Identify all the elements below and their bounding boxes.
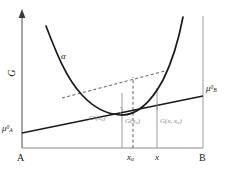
x-alpha-tick-label: xα xyxy=(127,153,134,163)
annotation-g-x-alpha: G(xα) xyxy=(125,118,140,125)
g-prime-main: G'(x xyxy=(89,114,101,122)
mu-b-standard-label: μ0B xyxy=(206,84,217,94)
g-x-alpha-tail: ) xyxy=(138,117,140,125)
alpha-curve-label: α xyxy=(61,52,66,61)
mu-b-subscript: B xyxy=(213,87,216,93)
x-axis-endpoint-a-label: A xyxy=(17,153,24,163)
x-axis-endpoint-b-label: B xyxy=(199,153,206,163)
y-axis-arrowhead xyxy=(19,9,26,18)
alpha-free-energy-curve xyxy=(46,17,183,115)
x-tick-label: x xyxy=(155,153,159,162)
g-prime-tail: ) xyxy=(103,114,105,122)
annotation-g-x-x-alpha: G(x, xα) xyxy=(160,118,182,125)
annotation-g-prime-x-alpha: G'(xα) xyxy=(89,115,106,122)
diagram-canvas xyxy=(0,0,226,174)
x-alpha-subscript: α xyxy=(131,156,134,162)
g-x-x-alpha-tail: ) xyxy=(179,117,181,125)
mu-a-standard-label: μ0A xyxy=(2,124,13,134)
y-axis-label: G xyxy=(7,65,17,81)
tangent-dashed-line xyxy=(62,71,165,98)
free-energy-diagram: G α μ0A μ0B A B xα x G'(xα) G(xα) G(x, x… xyxy=(0,0,226,174)
g-x-alpha-main: G(x xyxy=(125,117,136,125)
mu-a-subscript: A xyxy=(9,127,12,133)
y-axis xyxy=(19,9,26,148)
g-x-x-alpha-main: G(x, x xyxy=(160,117,177,125)
